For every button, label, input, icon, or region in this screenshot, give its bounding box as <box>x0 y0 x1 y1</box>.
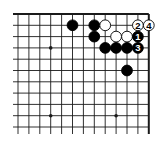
stone-disc <box>122 43 133 54</box>
white-stone[interactable]: 4 <box>143 20 154 31</box>
move-number-label: 4 <box>146 20 152 31</box>
black-stone[interactable] <box>111 43 122 54</box>
stone-disc <box>100 20 111 31</box>
go-board[interactable]: 2413 <box>0 0 163 144</box>
black-stone[interactable] <box>100 43 111 54</box>
move-number-label: 1 <box>135 31 141 42</box>
black-stone[interactable] <box>122 65 133 76</box>
star-point <box>114 114 118 118</box>
black-stone[interactable] <box>89 20 100 31</box>
white-stone[interactable]: 2 <box>133 20 144 31</box>
star-point <box>49 114 53 118</box>
stone-disc <box>67 20 78 31</box>
stone-disc <box>111 31 122 42</box>
black-stone[interactable]: 1 <box>133 31 144 42</box>
white-stone[interactable] <box>100 20 111 31</box>
white-stone[interactable] <box>111 31 122 42</box>
black-stone[interactable] <box>67 20 78 31</box>
black-stone[interactable] <box>122 43 133 54</box>
stone-disc <box>122 65 133 76</box>
stone-disc <box>100 43 111 54</box>
white-stone[interactable] <box>122 31 133 42</box>
stone-disc <box>122 31 133 42</box>
black-stone[interactable]: 3 <box>133 42 144 53</box>
move-number-label: 3 <box>135 42 140 53</box>
stone-disc <box>89 20 100 31</box>
stone-disc <box>89 31 100 42</box>
move-number-label: 2 <box>135 20 140 31</box>
star-point <box>49 46 53 50</box>
black-stone[interactable] <box>89 31 100 42</box>
stone-disc <box>111 43 122 54</box>
